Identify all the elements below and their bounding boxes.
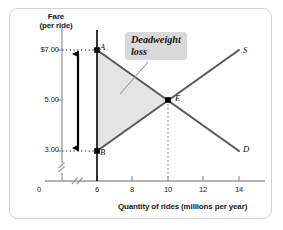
supply-curve-label: S <box>243 46 247 56</box>
x-axis-title: Quantity of rides (millions per year) <box>118 203 247 212</box>
y-tick-label-7: $7.00 <box>25 46 59 55</box>
deadweight-loss-region <box>97 50 168 151</box>
demand-curve-label: D <box>243 145 249 155</box>
point-a-marker <box>94 47 100 53</box>
origin-label: 0 <box>34 186 44 195</box>
x-tick-label-10: 10 <box>160 186 176 195</box>
y-tick-label-5: 5.00 <box>25 96 59 105</box>
y-axis-break-icon <box>59 163 65 173</box>
x-tick-label-14: 14 <box>231 186 247 195</box>
x-tick-label-12: 12 <box>195 186 211 195</box>
deadweight-loss-callout: Deadweight loss <box>125 32 187 60</box>
x-tick-label-6: 6 <box>89 186 105 195</box>
y-axis-title: Fare (per ride) <box>29 13 83 31</box>
point-b-marker <box>94 148 100 154</box>
point-a-label: A <box>100 43 105 53</box>
point-e-label: E <box>175 94 180 104</box>
y-axis-title-line2: (per ride) <box>29 22 83 31</box>
y-tick-label-3: 3.00 <box>25 146 59 155</box>
point-e-marker <box>165 97 171 103</box>
x-tick-label-8: 8 <box>124 186 140 195</box>
point-b-label: B <box>100 148 105 158</box>
